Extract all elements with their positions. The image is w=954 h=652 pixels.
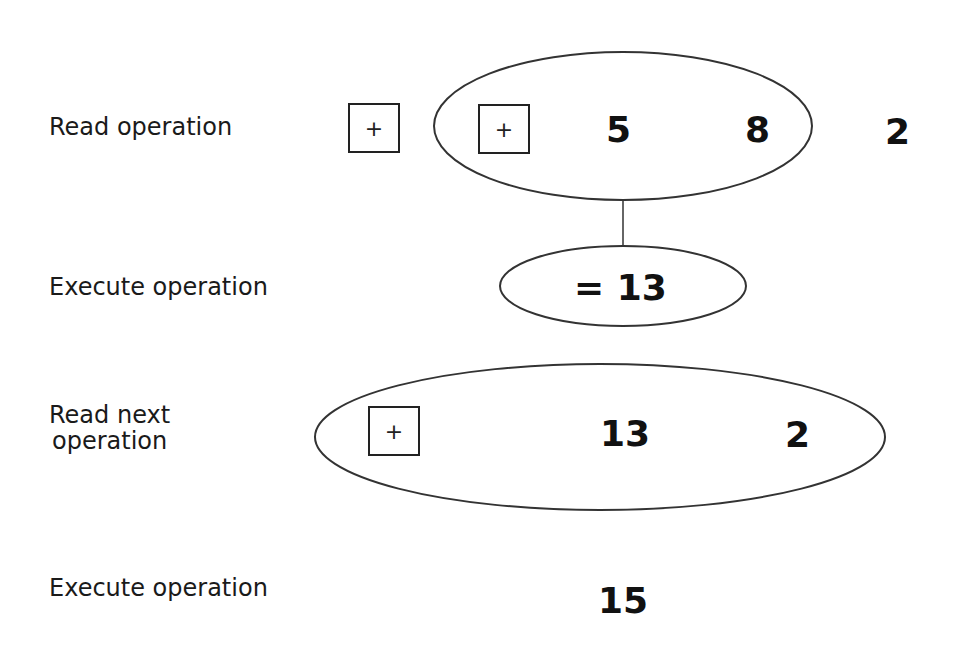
plus-icon: + bbox=[385, 419, 403, 444]
plus-operator-box-inner: + bbox=[478, 104, 530, 154]
result-13: = 13 bbox=[574, 268, 667, 308]
operand-2: 2 bbox=[785, 415, 810, 455]
operand-8: 8 bbox=[745, 110, 770, 150]
step-label-line1: Read next bbox=[49, 402, 170, 428]
plus-operator-box-outer: + bbox=[348, 103, 400, 153]
operand-2-remaining: 2 bbox=[885, 112, 910, 152]
final-result-15: 15 bbox=[598, 581, 648, 621]
step-label-read-next-operation: Read next operation bbox=[49, 402, 170, 454]
step-label-read-operation: Read operation bbox=[49, 114, 232, 140]
step-label-execute-operation-2: Execute operation bbox=[49, 575, 268, 601]
operand-13: 13 bbox=[600, 414, 650, 454]
operand-5: 5 bbox=[606, 110, 631, 150]
step-label-line2: operation bbox=[52, 428, 170, 454]
plus-icon: + bbox=[495, 117, 513, 142]
plus-icon: + bbox=[365, 116, 383, 141]
plus-operator-box-next: + bbox=[368, 406, 420, 456]
step-label-execute-operation: Execute operation bbox=[49, 274, 268, 300]
diagram-shapes bbox=[0, 0, 954, 652]
